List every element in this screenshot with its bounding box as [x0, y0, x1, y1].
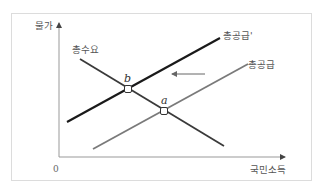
equilibrium-point-a [161, 108, 168, 115]
origin-label: 0 [53, 164, 59, 174]
x-axis-label: 국민소득 [250, 164, 286, 175]
point-b-label: b [124, 72, 131, 85]
point-a-label: a [161, 94, 168, 107]
y-axis-label: 물가 [35, 20, 53, 31]
supply-curve [93, 64, 248, 149]
as-ad-diagram: 물가 0 국민소득 총수요 총공급' 총공급 b a [0, 0, 323, 192]
demand-label: 총수요 [72, 44, 99, 55]
supply-shifted-label: 총공급' [223, 30, 253, 41]
supply-label: 총공급 [248, 59, 275, 70]
equilibrium-point-b [125, 86, 132, 93]
